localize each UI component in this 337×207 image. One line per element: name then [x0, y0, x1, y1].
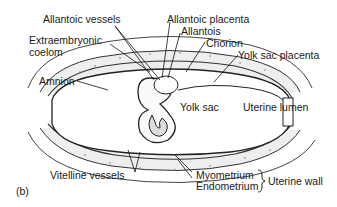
label-allantoic-placenta: Allantoic placenta — [167, 14, 249, 25]
label-vitelline-vessels: Vitelline vessels — [50, 170, 125, 181]
panel-label: (b) — [16, 186, 29, 197]
uterine-wall-brace — [258, 170, 265, 192]
label-extraembryonic-coelom-line1: Extraembryonic — [29, 35, 102, 46]
label-yolk-sac-placenta: Yolk sac placenta — [238, 50, 319, 61]
label-uterine-lumen: Uterine lumen — [243, 102, 308, 113]
label-allantoic-vessels: Allantoic vessels — [43, 14, 121, 25]
label-endometrium: Endometrium — [196, 181, 258, 192]
label-yolk-sac: Yolk sac — [180, 102, 219, 113]
label-allantois: Allantois — [181, 26, 221, 37]
allantois — [154, 76, 178, 94]
label-uterine-wall: Uterine wall — [268, 176, 323, 187]
label-amnion: Amnion — [39, 76, 75, 87]
label-extraembryonic-coelom-line2: coelom — [29, 47, 63, 58]
label-chorion: Chorion — [206, 38, 243, 49]
